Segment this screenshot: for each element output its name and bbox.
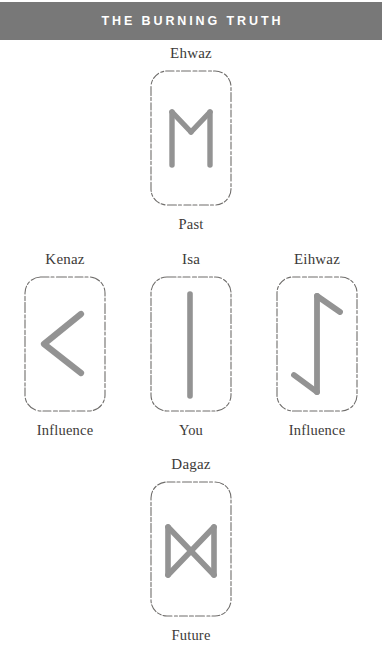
ehwaz-card-svg (148, 68, 234, 208)
rune-card-kenaz[interactable]: Kenaz Influence (1, 252, 129, 438)
past-row: Ehwaz Past (0, 46, 382, 232)
position-label: Past (179, 217, 204, 232)
rune-name-label: Dagaz (171, 457, 210, 472)
eihwaz-card-svg (274, 274, 360, 414)
dagaz-card-svg (148, 479, 234, 619)
future-row: Dagaz Future (0, 457, 382, 643)
position-label: Influence (289, 423, 346, 438)
page-title: THE BURNING TRUTH (99, 14, 284, 28)
header-banner: THE BURNING TRUTH (0, 2, 382, 40)
card-face[interactable] (148, 274, 234, 414)
position-label: Future (171, 628, 210, 643)
kenaz-card-svg (22, 274, 108, 414)
position-label: You (179, 423, 203, 438)
rune-name-label: Kenaz (45, 252, 84, 267)
rune-card-isa[interactable]: Isa You (129, 252, 253, 438)
card-face[interactable] (274, 274, 360, 414)
rune-card-eihwaz[interactable]: Eihwaz Influence (253, 252, 381, 438)
middle-row: Kenaz Influence Isa (0, 252, 382, 438)
card-face[interactable] (148, 68, 234, 208)
rune-name-label: Eihwaz (294, 252, 340, 267)
rune-name-label: Isa (182, 252, 200, 267)
card-face[interactable] (22, 274, 108, 414)
card-face[interactable] (148, 479, 234, 619)
card-border (25, 277, 105, 411)
card-border (151, 71, 231, 205)
rune-card-ehwaz[interactable]: Ehwaz Past (129, 46, 253, 232)
rune-card-dagaz[interactable]: Dagaz Future (129, 457, 253, 643)
isa-card-svg (148, 274, 234, 414)
rune-name-label: Ehwaz (170, 46, 212, 61)
rune-spread: Ehwaz Past Kenaz (0, 40, 382, 643)
position-label: Influence (37, 423, 94, 438)
